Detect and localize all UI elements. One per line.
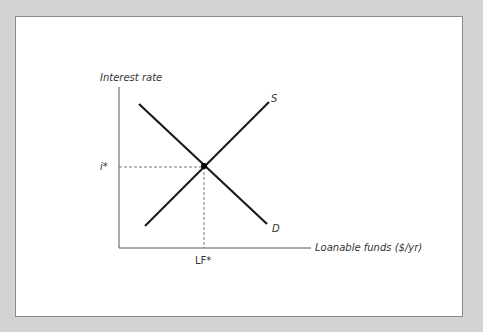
demand-label: D bbox=[272, 223, 280, 234]
eq-funds-label: LF* bbox=[195, 255, 211, 266]
y-axis-label: Interest rate bbox=[100, 72, 162, 83]
supply-demand-chart: Interest rate Loanable funds ($/yr) S D … bbox=[0, 0, 483, 332]
supply-label: S bbox=[271, 93, 278, 104]
equilibrium-point bbox=[201, 163, 207, 169]
eq-rate-label: i* bbox=[100, 161, 108, 172]
x-axis-label: Loanable funds ($/yr) bbox=[315, 242, 422, 253]
